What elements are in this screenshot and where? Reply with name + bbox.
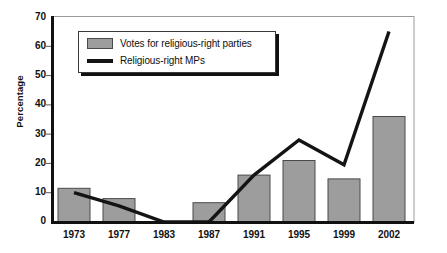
- legend-label: Religious-right MPs: [120, 55, 205, 66]
- chart-figure: Percentage 70 60 50 40 30 20 10 0: [0, 0, 447, 253]
- bar-2002: [373, 117, 405, 223]
- legend-label: Votes for religious-right parties: [120, 38, 252, 49]
- bar-1995: [283, 161, 315, 223]
- x-tick-label: 1995: [279, 229, 319, 240]
- x-tick-label: 1983: [144, 229, 184, 240]
- x-tick-label: 1987: [189, 229, 229, 240]
- legend-bar-swatch-icon: [87, 38, 113, 49]
- legend-item-mps: Religious-right MPs: [87, 55, 205, 66]
- bar-series-votes: [58, 117, 405, 223]
- x-tick-label: 1991: [234, 229, 274, 240]
- x-tick-label: 1999: [324, 229, 364, 240]
- x-tick-label: 1973: [54, 229, 94, 240]
- legend-line-swatch-icon: [87, 59, 113, 63]
- bar-1999: [328, 179, 360, 222]
- chart-legend: Votes for religious-right parties Religi…: [78, 31, 276, 73]
- x-tick-label: 2002: [369, 229, 409, 240]
- x-tick-label: 1977: [99, 229, 139, 240]
- bar-1991: [238, 175, 270, 222]
- legend-item-votes: Votes for religious-right parties: [87, 38, 252, 49]
